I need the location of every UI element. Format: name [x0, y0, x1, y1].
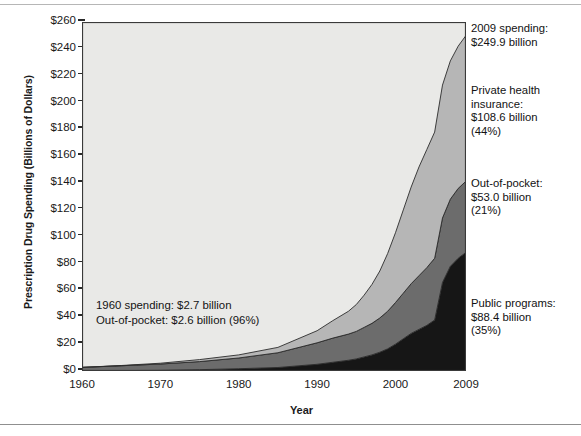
- x-tick-1980: 1980: [209, 378, 269, 390]
- x-tick-2009: 2009: [436, 378, 496, 390]
- x-tick-1960: 1960: [52, 378, 112, 390]
- x-axis-title: Year: [0, 404, 581, 416]
- y-tick-20: $20: [24, 336, 76, 348]
- x-tick-1990: 1990: [287, 378, 347, 390]
- callout-total-2009: 2009 spending: $249.9 billion: [471, 22, 548, 49]
- note-1960-spending: 1960 spending: $2.7 billion Out-of-pocke…: [96, 298, 259, 328]
- callout-private-insurance: Private health insurance: $108.6 billion…: [471, 84, 540, 138]
- y-tick-160: $160: [24, 148, 76, 160]
- y-tick-0: $0: [24, 363, 76, 375]
- y-tick-200: $200: [24, 95, 76, 107]
- callout-out-of-pocket: Out-of-pocket: $53.0 billion (21%): [471, 177, 543, 218]
- x-axis-tick-labels: 196019701980199020002009: [0, 378, 581, 402]
- callout-public-programs: Public programs: $88.4 billion (35%): [471, 297, 556, 338]
- y-tick-mark: [78, 19, 85, 21]
- y-tick-40: $40: [24, 309, 76, 321]
- chart-page: Prescription Drug Spending (Billions of …: [0, 0, 581, 436]
- x-tick-2000: 2000: [365, 378, 425, 390]
- x-tick-1970: 1970: [130, 378, 190, 390]
- y-tick-260: $260: [24, 14, 76, 26]
- y-tick-100: $100: [24, 229, 76, 241]
- y-tick-220: $220: [24, 68, 76, 80]
- y-tick-80: $80: [24, 256, 76, 268]
- bottom-divider-rule: [0, 424, 581, 425]
- y-tick-140: $140: [24, 175, 76, 187]
- y-tick-180: $180: [24, 121, 76, 133]
- top-divider-rule: [0, 4, 581, 5]
- y-axis-tick-labels: $0$20$40$60$80$100$120$140$160$180$200$2…: [20, 0, 76, 400]
- y-tick-240: $240: [24, 41, 76, 53]
- y-tick-120: $120: [24, 202, 76, 214]
- y-tick-60: $60: [24, 282, 76, 294]
